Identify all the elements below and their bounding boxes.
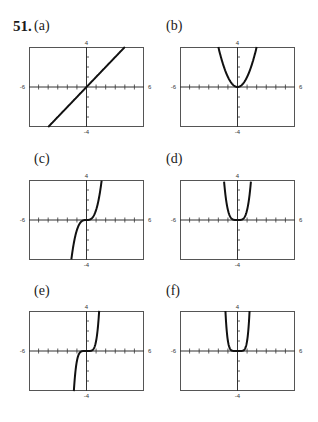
x-max-label: 6	[299, 217, 303, 223]
x-min-label: -6	[171, 84, 177, 90]
graph-panel: 4-4-66	[180, 311, 295, 391]
graph-panel: 4-4-66	[29, 47, 144, 127]
x-min-label: -6	[171, 348, 177, 354]
x-max-label: 6	[148, 217, 152, 223]
x-max-label: 6	[148, 348, 152, 354]
y-min-label: -4	[84, 129, 90, 135]
x-min-label: -6	[20, 84, 26, 90]
x-max-label: 6	[299, 84, 303, 90]
panel-label: (a)	[34, 18, 50, 34]
graph-panel: 4-4-66	[180, 180, 295, 260]
x-min-label: -6	[20, 348, 26, 354]
graph-panel: 4-4-66	[180, 47, 295, 127]
y-min-label: -4	[84, 393, 90, 399]
panel-label: (d)	[166, 151, 182, 167]
y-max-label: 4	[85, 40, 89, 46]
graph-svg: 4-4-66	[180, 47, 295, 127]
y-max-label: 4	[236, 304, 240, 310]
graph-svg: 4-4-66	[29, 311, 144, 391]
graph-svg: 4-4-66	[29, 180, 144, 260]
y-min-label: -4	[235, 129, 241, 135]
graph-svg: 4-4-66	[180, 311, 295, 391]
panel-label: (b)	[166, 18, 182, 34]
y-max-label: 4	[85, 304, 89, 310]
y-max-label: 4	[236, 173, 240, 179]
graph-svg: 4-4-66	[29, 47, 144, 127]
y-min-label: -4	[235, 262, 241, 268]
panel-label: (e)	[34, 283, 50, 299]
y-min-label: -4	[235, 393, 241, 399]
x-min-label: -6	[20, 217, 26, 223]
panel-label: (f)	[166, 283, 180, 299]
graph-panel: 4-4-66	[29, 311, 144, 391]
graph-panel: 4-4-66	[29, 180, 144, 260]
x-max-label: 6	[148, 84, 152, 90]
y-max-label: 4	[85, 173, 89, 179]
x-min-label: -6	[171, 217, 177, 223]
graph-svg: 4-4-66	[180, 180, 295, 260]
problem-number: 51.	[13, 18, 32, 35]
panel-label: (c)	[34, 151, 50, 167]
x-max-label: 6	[299, 348, 303, 354]
y-max-label: 4	[236, 40, 240, 46]
y-min-label: -4	[84, 262, 90, 268]
